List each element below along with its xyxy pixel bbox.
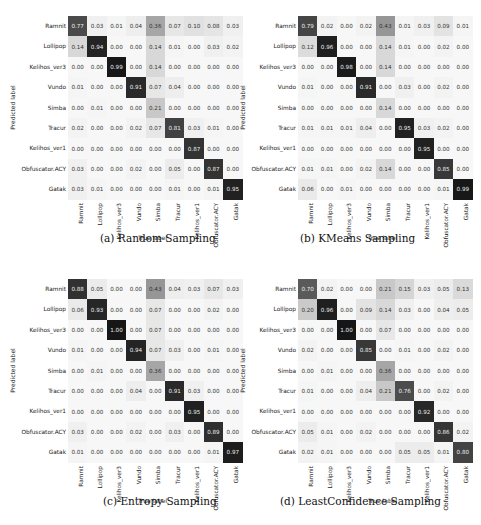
matrix-cell: 0.03 (414, 279, 433, 299)
matrix-cell: 0.00 (126, 299, 145, 319)
matrix-cell: 0.00 (107, 422, 126, 442)
matrix-cell: 0.95 (223, 179, 242, 199)
matrix-cell: 1.00 (337, 320, 356, 340)
matrix-cell: 0.87 (184, 138, 203, 158)
matrix-cell: 0.95 (395, 118, 414, 138)
matrix-cell: 0.95 (184, 401, 203, 421)
matrix-cell: 0.00 (126, 361, 145, 381)
matrix-cell: 0.14 (146, 36, 165, 56)
matrix-cell: 0.04 (356, 381, 375, 401)
matrix-cell: 0.02 (126, 159, 145, 179)
y-tick-label: Tracur (251, 381, 296, 401)
matrix-cell: 0.00 (107, 381, 126, 401)
matrix-cell: 0.00 (395, 57, 414, 77)
matrix-cell: 0.00 (87, 381, 106, 401)
x-tick-wrap: Gatak (453, 201, 472, 241)
matrix-cell: 0.13 (453, 279, 472, 299)
matrix-cell: 0.00 (317, 57, 336, 77)
matrix-cell: 0.00 (414, 340, 433, 360)
matrix-cell: 0.00 (87, 442, 106, 462)
matrix-cell: 0.07 (146, 299, 165, 319)
matrix-cell: 0.00 (337, 279, 356, 299)
matrix-cell: 0.00 (126, 401, 145, 421)
matrix-cell: 0.00 (126, 98, 145, 118)
y-tick-labels: RamnitLollipopKelihos_ver3VundoSimbaTrac… (21, 279, 66, 463)
matrix-cell: 0.07 (146, 320, 165, 340)
matrix-cell: 0.00 (298, 138, 317, 158)
x-tick-label: Gatak (463, 203, 469, 220)
x-tick-label: Ramnit (78, 203, 84, 224)
y-tick-label: Lollipop (21, 36, 66, 56)
x-tick-label: Vundo (136, 203, 142, 221)
matrix-cell: 0.01 (317, 159, 336, 179)
matrix-cell: 0.01 (165, 36, 184, 56)
matrix-cell: 0.00 (184, 442, 203, 462)
matrix-cell: 0.00 (107, 36, 126, 56)
matrix-cell: 0.00 (184, 159, 203, 179)
matrix-cell: 0.00 (376, 138, 395, 158)
matrix-cell: 0.00 (68, 361, 87, 381)
matrix-cell: 0.00 (184, 36, 203, 56)
matrix-cell: 0.00 (337, 138, 356, 158)
x-tick-label: Vundo (366, 466, 372, 484)
matrix-cell: 0.00 (165, 442, 184, 462)
matrix-cell: 0.00 (68, 57, 87, 77)
matrix-cell: 0.00 (204, 381, 223, 401)
matrix-cell: 0.03 (414, 118, 433, 138)
matrix-cell: 0.03 (204, 36, 223, 56)
matrix-cell: 0.00 (434, 138, 453, 158)
matrix-cell: 0.02 (298, 340, 317, 360)
matrix-cell: 0.00 (126, 442, 145, 462)
matrix-cell: 0.00 (414, 381, 433, 401)
matrix-cell: 0.02 (434, 118, 453, 138)
x-tick-label: Lollipop (327, 203, 333, 225)
matrix-cell: 0.05 (414, 442, 433, 462)
matrix-cell: 0.00 (165, 138, 184, 158)
matrix-cell: 0.14 (376, 159, 395, 179)
y-tick-label: Tracur (21, 381, 66, 401)
matrix-cell: 0.00 (453, 36, 472, 56)
matrix-cell: 0.99 (453, 179, 472, 199)
matrix-cell: 0.00 (165, 320, 184, 340)
matrix-cell: 0.00 (204, 77, 223, 97)
matrix-cell: 0.01 (317, 361, 336, 381)
matrix-cell: 0.01 (107, 16, 126, 36)
y-tick-label: Simba (251, 361, 296, 381)
matrix-cell: 0.05 (87, 279, 106, 299)
matrix-cell: 0.00 (317, 179, 336, 199)
matrix-cell: 0.00 (356, 320, 375, 340)
matrix-cell: 0.00 (223, 320, 242, 340)
y-tick-label: Ramnit (21, 279, 66, 299)
matrix-cell: 0.00 (376, 340, 395, 360)
x-tick-label: Ramnit (308, 466, 314, 487)
matrix-cell: 0.00 (453, 138, 472, 158)
matrix-cell: 0.03 (87, 16, 106, 36)
matrix-cell: 0.00 (68, 320, 87, 340)
matrix-cell: 0.00 (414, 422, 433, 442)
matrix-cell: 0.00 (68, 381, 87, 401)
matrix-cell: 0.00 (223, 159, 242, 179)
matrix-cell: 0.03 (165, 422, 184, 442)
y-tick-label: Kelihos_ver1 (21, 401, 66, 421)
matrix-cell: 0.00 (204, 57, 223, 77)
matrix-cell: 0.00 (68, 401, 87, 421)
matrix-cell: 0.79 (298, 16, 317, 36)
matrix-cell: 0.36 (146, 16, 165, 36)
matrix-cell: 0.00 (126, 36, 145, 56)
matrix-cell: 0.00 (87, 57, 106, 77)
matrix-cell: 0.00 (414, 299, 433, 319)
x-tick-wrap: Ramnit (68, 201, 87, 241)
x-tick-label: Kelihos_ver1 (424, 203, 430, 240)
matrix-cell: 0.00 (223, 299, 242, 319)
matrix-cell: 0.14 (146, 57, 165, 77)
matrix-cell: 0.00 (184, 179, 203, 199)
matrix-cell: 0.01 (395, 340, 414, 360)
x-tick-label: Tracur (405, 203, 411, 221)
matrix-cell: 0.02 (317, 279, 336, 299)
matrix-cell: 0.00 (317, 138, 336, 158)
matrix-cell: 0.00 (107, 401, 126, 421)
y-tick-label: Gatak (251, 442, 296, 462)
matrix-cell: 0.00 (434, 401, 453, 421)
matrix-cell: 0.95 (414, 138, 433, 158)
matrix-cell: 0.00 (107, 77, 126, 97)
